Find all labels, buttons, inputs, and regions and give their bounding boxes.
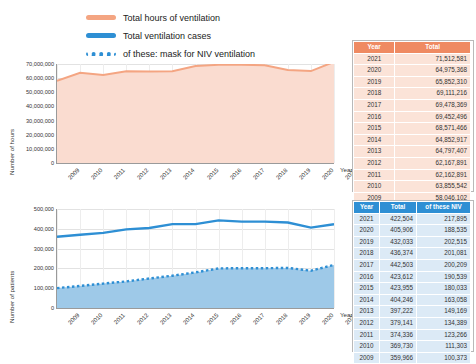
vertical-gridline xyxy=(334,64,335,163)
table-cell-value: 71,512,581 xyxy=(395,53,471,65)
x-axis-tick: 2013 xyxy=(159,167,173,181)
table-row: 201965,852,310 xyxy=(354,76,471,88)
x-axis-tick: 2010 xyxy=(90,312,104,326)
table-cell-value: 405,906 xyxy=(380,225,417,237)
table-cell-year: 2009 xyxy=(354,352,380,364)
x-axis-tick: 2009 xyxy=(67,312,81,326)
table-cell-year: 2012 xyxy=(354,317,380,329)
table-row: 201464,852,917 xyxy=(354,134,471,146)
table-header-cell: Total xyxy=(380,202,417,214)
table-row: 201162,162,891 xyxy=(354,169,471,181)
legend-item-cases: Total ventilation cases xyxy=(86,28,255,43)
table-row: 201063,855,542 xyxy=(354,181,471,193)
legend-label-niv: of these: mask for NIV ventilation xyxy=(123,49,255,59)
y-axis-tick: 50,000,000 xyxy=(26,89,54,95)
table-cell-year: 2010 xyxy=(354,181,395,193)
legend-item-hours: Total hours of ventilation xyxy=(86,10,255,25)
table-cell-value: 200,209 xyxy=(417,259,471,271)
legend-swatch-blue xyxy=(86,33,116,38)
table-header-cell: Total xyxy=(395,42,471,54)
table-cell-year: 2017 xyxy=(354,259,380,271)
table-header-row: YearTotal xyxy=(354,42,471,54)
table-cell-value: 423,612 xyxy=(380,271,417,283)
y-axis-tick: 40,000,000 xyxy=(26,103,54,109)
x-axis-tick: 2015 xyxy=(205,312,219,326)
table-cell-year: 2016 xyxy=(354,111,395,123)
table-cell-value: 432,033 xyxy=(380,236,417,248)
table-row: 2017442,503200,209 xyxy=(354,259,471,271)
table-cell-year: 2015 xyxy=(354,283,380,295)
table-row: 201669,452,496 xyxy=(354,111,471,123)
y-axis-tick: 400,000 xyxy=(34,226,54,232)
table-cell-value: 374,336 xyxy=(380,329,417,341)
hours-y-axis-label: Number of hours xyxy=(8,129,15,175)
cases-plot-area: 0100,000200,000300,000400,000500,0002009… xyxy=(56,209,334,309)
table-cell-value: 64,852,917 xyxy=(395,134,471,146)
y-axis-tick: 10,000,000 xyxy=(26,146,54,152)
x-axis-tick: 2020 xyxy=(321,312,335,326)
table-row: 2016423,612190,539 xyxy=(354,271,471,283)
table-cell-value: 63,855,542 xyxy=(395,181,471,193)
table-cell-value: 163,058 xyxy=(417,294,471,306)
table-cell-value: 180,033 xyxy=(417,283,471,295)
x-axis-tick: 2018 xyxy=(275,312,289,326)
table-cell-year: 2020 xyxy=(354,65,395,77)
table-cell-year: 2011 xyxy=(354,329,380,341)
y-axis-tick: 60,000,000 xyxy=(26,75,54,81)
table-cell-value: 397,222 xyxy=(380,306,417,318)
table-cell-value: 436,374 xyxy=(380,248,417,260)
series-line xyxy=(57,220,334,236)
hours-table-frame: YearTotal202171,512,581202064,975,368201… xyxy=(352,40,474,192)
table-cell-year: 2018 xyxy=(354,248,380,260)
table-header-cell: of these NIV xyxy=(417,202,471,214)
table-cell-value: 100,373 xyxy=(417,352,471,364)
table-cell-value: 134,389 xyxy=(417,317,471,329)
table-row: 2010369,730111,303 xyxy=(354,341,471,353)
x-axis-tick: 2017 xyxy=(252,312,266,326)
table-cell-value: 190,539 xyxy=(417,271,471,283)
table-cell-value: 217,895 xyxy=(417,213,471,225)
table-cell-value: 423,955 xyxy=(380,283,417,295)
x-axis-tick: 2017 xyxy=(252,167,266,181)
cases-y-axis-label: Number of patients xyxy=(8,271,15,323)
table-header-row: YearTotalof these NIV xyxy=(354,202,471,214)
y-axis-tick: 0 xyxy=(51,305,54,311)
table-cell-year: 2021 xyxy=(354,53,395,65)
table-cell-year: 2012 xyxy=(354,157,395,169)
table-cell-year: 2018 xyxy=(354,88,395,100)
x-axis-tick: 2011 xyxy=(113,167,126,180)
legend: Total hours of ventilation Total ventila… xyxy=(86,10,255,64)
table-row: 201769,478,369 xyxy=(354,99,471,111)
table-row: 202171,512,581 xyxy=(354,53,471,65)
table-cell-value: 201,081 xyxy=(417,248,471,260)
legend-label-hours: Total hours of ventilation xyxy=(123,13,220,23)
table-cell-year: 2014 xyxy=(354,294,380,306)
table-cell-value: 65,852,310 xyxy=(395,76,471,88)
cases-table-frame: YearTotalof these NIV2021422,504217,8952… xyxy=(352,200,474,352)
legend-swatch-orange xyxy=(86,15,116,20)
hours-table: YearTotal202171,512,581202064,975,368201… xyxy=(353,41,471,204)
table-row: 2018436,374201,081 xyxy=(354,248,471,260)
hours-chart: Number of hours 010,000,00020,000,00030,… xyxy=(0,60,350,185)
table-row: 201364,797,407 xyxy=(354,146,471,158)
y-axis-tick: 100,000 xyxy=(34,285,54,291)
table-cell-value: 62,167,891 xyxy=(395,157,471,169)
x-axis-tick: 2018 xyxy=(275,167,289,181)
cases-table: YearTotalof these NIV2021422,504217,8952… xyxy=(353,201,471,364)
x-axis-tick: 2020 xyxy=(321,167,335,181)
y-axis-tick: 30,000,000 xyxy=(26,118,54,124)
legend-label-cases: Total ventilation cases xyxy=(123,31,211,41)
x-axis-tick: 2013 xyxy=(159,312,173,326)
x-axis-tick: 2015 xyxy=(205,167,219,181)
table-row: 202064,975,368 xyxy=(354,65,471,77)
table-cell-value: 69,111,216 xyxy=(395,88,471,100)
series-area-secondary xyxy=(57,265,334,308)
hours-x-axis-label: Year xyxy=(340,166,353,173)
table-cell-value: 69,478,369 xyxy=(395,99,471,111)
table-row: 201262,167,891 xyxy=(354,157,471,169)
x-axis-tick: 2012 xyxy=(136,167,150,181)
table-cell-year: 2021 xyxy=(354,213,380,225)
table-cell-value: 379,141 xyxy=(380,317,417,329)
y-axis-tick: 200,000 xyxy=(34,265,54,271)
